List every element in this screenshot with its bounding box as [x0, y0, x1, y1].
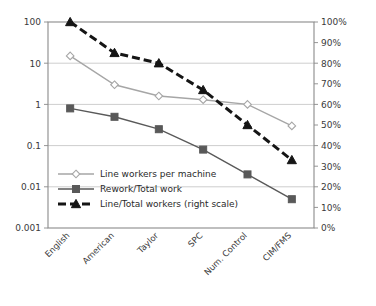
- marker-diamond: [244, 101, 252, 109]
- chart-legend: Line workers per machineRework/Total wor…: [58, 169, 238, 209]
- right-axis-ticks: 100%90%80%70%60%50%40%30%20%10%0%: [314, 17, 347, 233]
- marker-square: [155, 126, 162, 133]
- category-label: Num. Control: [202, 230, 249, 277]
- marker-diamond: [199, 96, 207, 104]
- right-axis-tick-label: 70%: [321, 79, 341, 89]
- series-line: [70, 56, 292, 126]
- legend-label: Rework/Total work: [100, 184, 183, 194]
- right-axis-tick-label: 50%: [321, 120, 341, 130]
- marker-square: [67, 105, 74, 112]
- series-1: [66, 52, 295, 130]
- marker-square: [111, 113, 118, 120]
- category-label: American: [80, 230, 116, 266]
- left-axis-tick-label: 0.01: [21, 182, 41, 192]
- right-axis-tick-label: 100%: [321, 17, 347, 27]
- marker-square: [200, 146, 207, 153]
- legend-label: Line workers per machine: [100, 169, 217, 179]
- category-label: CIM/FMS: [261, 230, 294, 263]
- marker-diamond: [111, 81, 119, 89]
- marker-square: [73, 186, 80, 193]
- right-axis-tick-label: 80%: [321, 59, 341, 69]
- marker-diamond: [66, 52, 74, 60]
- series-3: [66, 17, 297, 163]
- marker-square: [288, 196, 295, 203]
- left-axis-tick-label: 0.001: [15, 223, 41, 233]
- marker-diamond: [72, 170, 80, 178]
- category-label: English: [43, 230, 72, 259]
- marker-diamond: [288, 122, 296, 130]
- right-axis-tick-label: 0%: [321, 223, 336, 233]
- plot-frame: [48, 22, 314, 228]
- right-axis-tick-label: 30%: [321, 162, 341, 172]
- chart-canvas: 1001010.10.010.001 100%90%80%70%60%50%40…: [0, 0, 376, 306]
- category-axis-labels: EnglishAmericanTaylorSPCNum. ControlCIM/…: [43, 230, 293, 277]
- right-axis-tick-label: 40%: [321, 141, 341, 151]
- left-axis-tick-label: 10: [30, 59, 42, 69]
- marker-triangle: [243, 120, 252, 128]
- category-label: SPC: [186, 230, 205, 249]
- right-axis-tick-label: 10%: [321, 203, 341, 213]
- left-axis-tick-label: 100: [24, 17, 41, 27]
- left-axis-ticks: 1001010.10.010.001: [15, 17, 48, 233]
- marker-square: [244, 171, 251, 178]
- left-axis-tick-label: 0.1: [27, 141, 41, 151]
- left-axis-tick-label: 1: [35, 100, 41, 110]
- right-axis-tick-label: 20%: [321, 182, 341, 192]
- legend-label: Line/Total workers (right scale): [100, 199, 238, 209]
- right-axis-tick-label: 90%: [321, 38, 341, 48]
- category-label: Taylor: [135, 230, 161, 256]
- gridlines: [48, 63, 314, 187]
- right-axis-tick-label: 60%: [321, 100, 341, 110]
- chart-figure: 1001010.10.010.001 100%90%80%70%60%50%40…: [0, 0, 376, 306]
- marker-diamond: [155, 92, 163, 100]
